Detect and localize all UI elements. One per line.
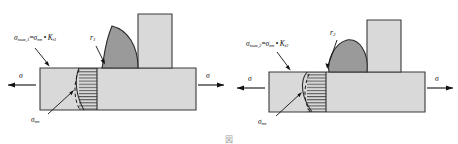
load-label-left: σ [248,75,252,83]
peak-stress-label: σmax,2=σnn•Kt2 [246,40,288,49]
radius-subscript: 2 [333,32,336,37]
kt-subscript: t2 [285,43,289,48]
radius-subscript: 1 [93,37,96,42]
load-arrow-left-head [237,85,244,90]
sigma-max-subscript: max,2 [250,43,262,48]
load-arrow-left-head [8,82,15,87]
base-plate [269,72,425,112]
leader-peak-stress-head [44,61,49,66]
diagram-panel-right: σmax,2=σnn•Kt2 r2 σnn σ σ [229,0,458,144]
load-arrow-right-head [446,85,453,90]
leader-peak-stress [35,48,48,64]
leader-peak-stress-head [285,65,290,70]
attachment-plate [367,20,401,72]
notch-radius-label: r2 [330,29,335,37]
peak-stress-label: σmax,1=σnn•Kt1 [14,34,56,43]
nominal-stress-label: σnn [31,117,39,125]
sigma-max-subscript: max,1 [18,37,30,42]
load-label-left: σ [19,72,23,80]
attachment-plate [138,14,172,68]
load-label-right: σ [435,75,439,83]
notch-radius-label: r1 [90,34,95,42]
kt-subscript: t1 [53,37,57,42]
figure-root: σmax,1=σnn•Kt1 r1 σnn σ σ [0,0,458,144]
nominal-sigma-subscript: nn [262,121,267,126]
leader-peak-stress [277,52,289,68]
figure-caption: 図 [0,133,458,144]
weld-bead [102,26,138,68]
nominal-stress-label: σnn [258,119,266,127]
stress-distribution-hatch [79,68,97,110]
diagram-panel-left: σmax,1=σnn•Kt1 r1 σnn σ σ [0,0,229,144]
weld-bead [329,40,368,72]
load-arrow-right-head [217,82,224,87]
base-plate [40,68,196,110]
nominal-sigma-subscript: nn [35,119,40,124]
stress-distribution-hatch [307,72,326,112]
load-label-right: σ [206,72,210,80]
